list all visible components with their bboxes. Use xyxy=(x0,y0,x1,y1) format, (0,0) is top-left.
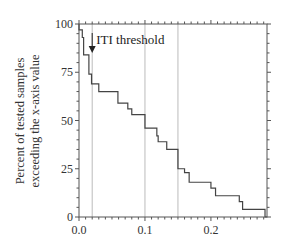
y-tick-label: 25 xyxy=(61,162,73,176)
x-tick-label: 0.0 xyxy=(72,223,87,237)
tick-labels: 0.00.10.20255075100 xyxy=(55,17,218,237)
y-axis-label: Percent of tested samples exceeding the … xyxy=(13,54,42,187)
arrow-down-icon xyxy=(89,46,96,53)
x-tick-label: 0.1 xyxy=(137,223,152,237)
exceedance-step-chart: 0.00.10.20255075100 ITI threshold Percen… xyxy=(0,0,290,250)
plot-frame xyxy=(79,24,267,217)
plot-border xyxy=(79,24,267,217)
axis-ticks xyxy=(75,20,271,221)
y-tick-label: 0 xyxy=(67,210,73,224)
annotation-label: ITI threshold xyxy=(96,32,165,47)
step-curve xyxy=(79,24,267,217)
y-axis-label-line-2: exceeding the x-axis value xyxy=(28,54,42,187)
y-tick-label: 50 xyxy=(61,114,73,128)
x-tick-label: 0.2 xyxy=(203,223,218,237)
y-tick-label: 100 xyxy=(55,17,73,31)
reference-lines xyxy=(92,24,178,217)
y-tick-label: 75 xyxy=(61,65,73,79)
iti-threshold-annotation: ITI threshold xyxy=(89,32,165,53)
exceedance-curve xyxy=(79,24,267,217)
y-axis-label-line-1: Percent of tested samples xyxy=(13,58,27,185)
